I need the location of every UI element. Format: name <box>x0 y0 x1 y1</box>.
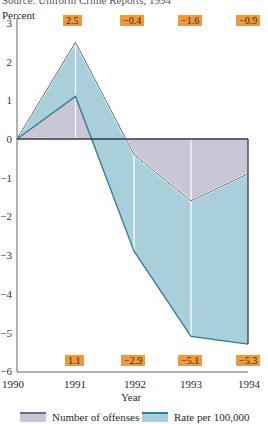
svg-text:−5: −5 <box>0 327 12 339</box>
legend-label-rate: Rate per 100,000 <box>174 411 249 423</box>
offenses-swatch-icon <box>20 412 46 422</box>
rate-value-1994: −5.3 <box>236 355 260 366</box>
svg-text:3: 3 <box>7 17 13 29</box>
legend-label-offenses: Number of offenses <box>52 411 139 423</box>
offenses-value-1994: −0.9 <box>236 15 260 26</box>
svg-text:−3: −3 <box>0 249 12 261</box>
svg-text:−2: −2 <box>0 210 12 222</box>
rate-swatch-icon <box>142 412 168 422</box>
x-tick-1994: 1994 <box>238 378 260 390</box>
svg-text:−6: −6 <box>0 365 12 377</box>
x-tick-1991: 1991 <box>64 378 86 390</box>
rate-value-1992: −2.9 <box>121 355 145 366</box>
legend-item-offenses: Number of offenses <box>20 411 139 423</box>
svg-text:2: 2 <box>7 56 13 68</box>
offenses-value-1993: −1.6 <box>178 15 202 26</box>
offenses-value-1992: −0.4 <box>120 15 144 26</box>
svg-text:−1: −1 <box>0 172 12 184</box>
x-tick-1990: 1990 <box>2 378 24 390</box>
x-tick-1992: 1992 <box>124 378 146 390</box>
rate-difference-area <box>17 42 248 344</box>
rate-value-1993: −5.1 <box>178 355 202 366</box>
svg-text:−4: −4 <box>0 288 12 300</box>
svg-text:1: 1 <box>7 94 13 106</box>
legend-item-rate: Rate per 100,000 <box>142 411 249 423</box>
offenses-value-1991: 2.5 <box>63 15 82 26</box>
x-axis-title: Year <box>121 391 141 403</box>
svg-text:0: 0 <box>7 133 13 145</box>
rate-value-1991: 1.1 <box>65 355 84 366</box>
x-tick-1993: 1993 <box>180 378 202 390</box>
